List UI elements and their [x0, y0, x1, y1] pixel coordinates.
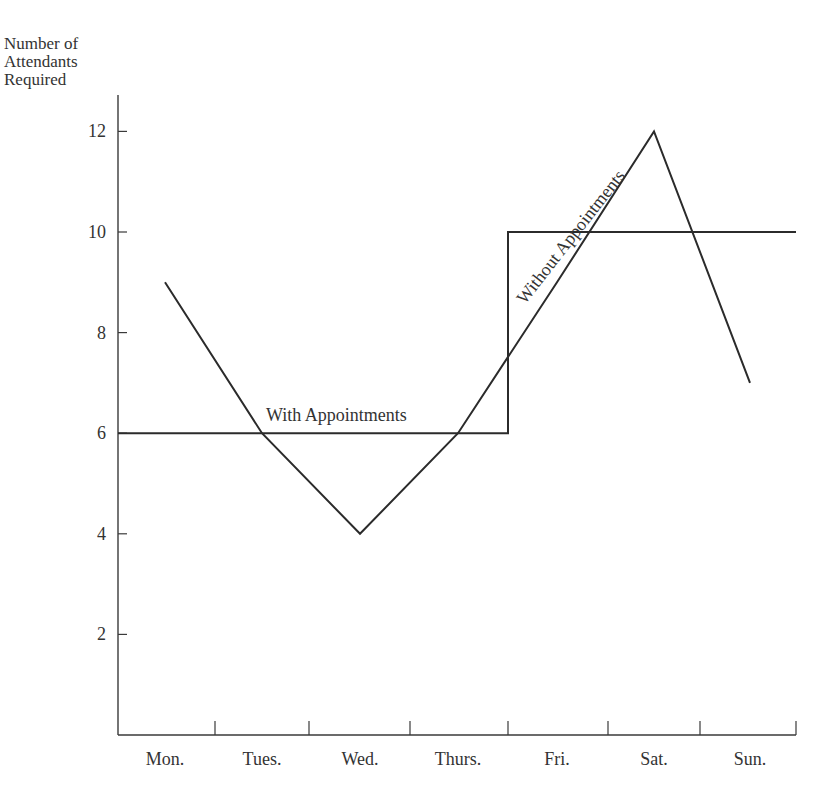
annotations: With AppointmentsWithout Appointments	[266, 166, 629, 425]
x-tick-label: Sat.	[640, 749, 668, 769]
y-tick-label: 10	[88, 222, 106, 242]
series-group	[118, 131, 796, 533]
x-tick-label: Thurs.	[435, 749, 482, 769]
y-tick-label: 6	[97, 423, 106, 443]
y-tick-label: 2	[97, 624, 106, 644]
annotation-without-appointments: Without Appointments	[512, 166, 629, 307]
y-tick-label: 4	[97, 524, 106, 544]
chart-canvas: 24681012 Mon.Tues.Wed.Thurs.Fri.Sat.Sun.…	[0, 0, 822, 789]
x-tick-label: Fri.	[544, 749, 570, 769]
x-tick-label: Wed.	[341, 749, 378, 769]
series-without-appointments	[165, 131, 750, 533]
x-axis-ticks: Mon.Tues.Wed.Thurs.Fri.Sat.Sun.	[146, 721, 796, 769]
axes	[118, 95, 796, 735]
y-tick-label: 12	[88, 121, 106, 141]
y-tick-label: 8	[97, 323, 106, 343]
x-tick-label: Tues.	[243, 749, 282, 769]
y-axis-ticks: 24681012	[88, 121, 127, 644]
series-with-appointments	[118, 232, 796, 433]
x-tick-label: Mon.	[146, 749, 185, 769]
annotation-with-appointments: With Appointments	[266, 405, 407, 425]
x-tick-label: Sun.	[734, 749, 767, 769]
